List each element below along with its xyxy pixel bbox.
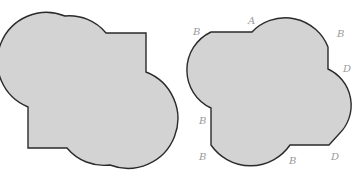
left-composite-shape xyxy=(0,12,178,168)
vertex-label: B xyxy=(198,115,206,126)
vertex-label: D xyxy=(330,151,339,162)
vertex-label: B xyxy=(198,151,206,162)
vertex-label: B xyxy=(192,26,200,37)
right-composite-shape xyxy=(187,18,351,166)
vertex-label: D xyxy=(342,63,351,74)
diagram-canvas: B A B D B B B D xyxy=(0,0,359,181)
vertex-label: B xyxy=(288,155,296,166)
vertex-label: B xyxy=(336,28,344,39)
vertex-label: A xyxy=(247,15,255,26)
